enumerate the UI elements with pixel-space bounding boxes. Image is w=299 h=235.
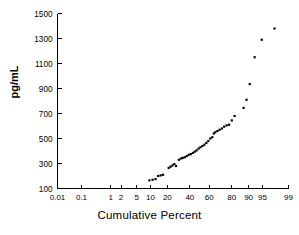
y-tick-label: 1300: [34, 35, 53, 44]
data-point: [211, 136, 213, 138]
data-point: [209, 137, 211, 139]
x-tick-label: 1: [108, 193, 113, 202]
x-axis-ticks: 0.010.11251020406080909599: [50, 185, 294, 202]
data-point: [154, 178, 156, 180]
y-axis-title: pg/mL: [8, 52, 20, 112]
x-tick-label: 90: [244, 193, 253, 202]
data-point: [249, 83, 251, 85]
data-point: [228, 124, 230, 126]
data-point: [254, 56, 256, 58]
data-point: [168, 167, 170, 169]
x-tick-label: 60: [205, 193, 214, 202]
data-point: [182, 157, 184, 159]
data-point: [170, 166, 172, 168]
data-point: [184, 156, 186, 158]
data-point: [273, 27, 275, 29]
data-point: [219, 129, 221, 131]
y-tick-label: 1500: [34, 10, 53, 19]
data-point: [214, 131, 216, 133]
data-point: [160, 174, 162, 176]
y-tick-label: 1100: [35, 60, 53, 69]
data-point: [175, 165, 177, 167]
x-tick-label: 2: [119, 193, 124, 202]
x-tick-label: 95: [258, 193, 267, 202]
data-point: [221, 127, 223, 129]
data-point: [192, 152, 194, 154]
x-tick-label: 80: [227, 193, 236, 202]
y-tick-label: 500: [39, 135, 53, 144]
data-point: [157, 175, 159, 177]
data-point: [205, 142, 207, 144]
data-point: [242, 107, 244, 109]
data-point: [194, 151, 196, 153]
plot-canvas: 150013001100900700500300100 0.010.112510…: [0, 0, 299, 235]
x-tick-label: 20: [163, 193, 172, 202]
data-point: [201, 145, 203, 147]
y-tick-label: 700: [39, 110, 53, 119]
data-point: [216, 130, 218, 132]
data-point: [261, 39, 263, 41]
x-tick-label: 40: [185, 193, 194, 202]
data-point: [196, 149, 198, 151]
data-point: [190, 153, 192, 155]
data-point: [148, 179, 150, 181]
data-points: [148, 27, 275, 181]
data-point: [198, 147, 200, 149]
y-tick-label: 300: [39, 160, 53, 169]
data-point: [178, 159, 180, 161]
data-point: [231, 119, 233, 121]
x-axis-title: Cumulative Percent: [0, 209, 299, 221]
data-point: [152, 179, 154, 181]
x-tick-label: 99: [284, 193, 293, 202]
x-tick-label: 5: [134, 193, 139, 202]
data-point: [245, 99, 247, 101]
axes-group: [58, 14, 289, 189]
data-point: [233, 115, 235, 117]
x-tick-label: 0.1: [76, 193, 88, 202]
y-tick-label: 900: [39, 85, 53, 94]
data-point: [225, 124, 227, 126]
probability-plot-figure: 150013001100900700500300100 0.010.112510…: [0, 0, 299, 235]
data-point: [199, 146, 201, 148]
axis-spines: [58, 14, 289, 189]
data-point: [162, 174, 164, 176]
data-point: [203, 144, 205, 146]
x-tick-label: 0.01: [50, 193, 66, 202]
data-point: [207, 140, 209, 142]
data-point: [188, 154, 190, 156]
data-point: [223, 126, 225, 128]
data-point: [186, 155, 188, 157]
x-tick-label: 10: [146, 193, 155, 202]
